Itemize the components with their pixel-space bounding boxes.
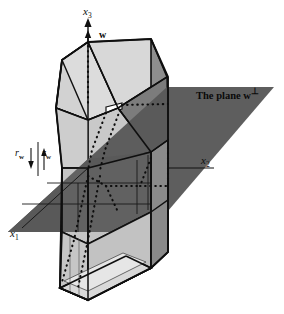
radius-label-right: rw (42, 148, 51, 161)
axis-label-x3-sub: 3 (88, 11, 92, 20)
axis-label-x3: x3 (83, 6, 92, 20)
axis-label-x1-sub: 1 (15, 233, 19, 242)
figure-canvas: x3 w x2 x1 The plane w⊥ rw rw (0, 0, 284, 314)
radius-label-left: rw (15, 148, 24, 161)
lower-right-face-visible (151, 200, 168, 268)
axis-label-x1: x1 (10, 228, 19, 242)
radius-label-right-sub: w (46, 153, 51, 161)
axis-label-x2: x2 (201, 155, 210, 169)
radius-label-left-sub: w (19, 153, 24, 161)
plane-label-text: The plane w (196, 90, 251, 101)
vector-label-w: w (99, 30, 106, 40)
axis-label-x2-sub: 2 (206, 160, 210, 169)
perpendicular-icon: ⊥ (251, 86, 259, 96)
plane-label: The plane w⊥ (196, 87, 259, 101)
